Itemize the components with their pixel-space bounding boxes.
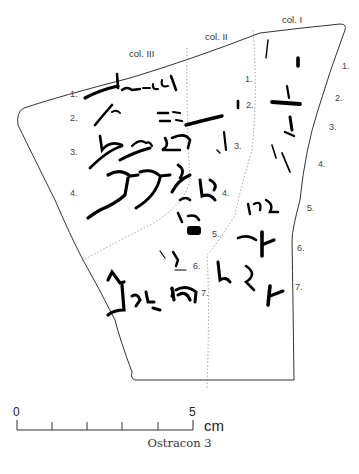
col1-line-3: 3. — [329, 122, 337, 132]
scale-end-label: 5 — [189, 405, 196, 419]
col1-line-4: 4. — [318, 159, 326, 169]
col2-line-2: 2. — [246, 100, 254, 110]
col3-line-1: 1. — [70, 89, 78, 99]
col1-line-2: 2. — [335, 93, 343, 103]
col2-line-6: 6. — [193, 261, 201, 271]
col1-line-1: 1. — [342, 61, 350, 71]
col3-line-2: 2. — [70, 113, 78, 123]
inscription-col1 — [218, 40, 300, 305]
col-ii-label: col. II — [205, 31, 228, 42]
col2-line-7: 7. — [201, 288, 209, 298]
ostracon-drawing: col. III col. II col. I 1. 2. 3. 4. 1. 2… — [0, 0, 359, 474]
col2-line-1: 1. — [245, 74, 253, 84]
scale-start-label: 0 — [13, 405, 20, 419]
inscription-col2 — [160, 101, 238, 302]
ostracon-figure: col. III col. II col. I 1. 2. 3. 4. 1. 2… — [0, 0, 359, 474]
col2-line-4: 4. — [222, 188, 230, 198]
scale-unit-label: cm — [204, 417, 224, 434]
inscription-col3-bottom — [108, 272, 190, 315]
col2-line-5: 5. — [212, 229, 220, 239]
col-i-label: col. I — [282, 14, 302, 25]
col1-line-7: 7. — [295, 282, 303, 292]
col1-line-5: 5. — [307, 203, 315, 213]
col3-line-3: 3. — [70, 147, 78, 157]
col2-line-3: 3. — [234, 141, 242, 151]
sherd-outline — [18, 24, 346, 380]
col1-line-6: 6. — [297, 243, 305, 253]
col3-line-4: 4. — [70, 188, 78, 198]
figure-caption: Ostracon 3 — [0, 436, 359, 450]
scale-bar: 0 5 cm — [13, 405, 224, 434]
inscription-col3 — [85, 74, 190, 218]
col-iii-label: col. III — [129, 48, 154, 59]
